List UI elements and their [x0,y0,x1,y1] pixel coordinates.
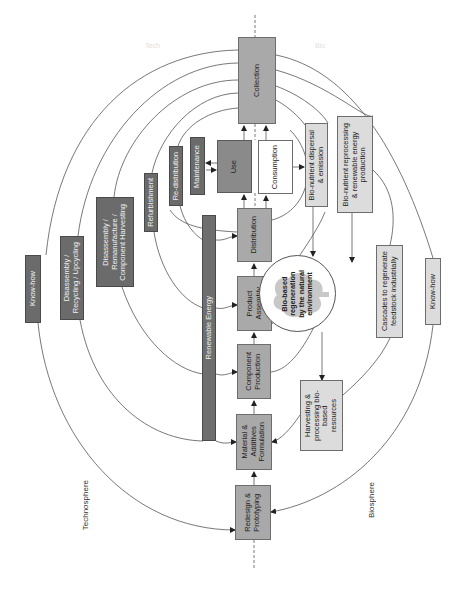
technosphere-label: Technosphere [81,480,90,530]
bio-nutrient-dispersal-box: Bio-nutrient dispersal & emission [305,123,328,207]
redistribution-label: Re-distribution [172,152,181,200]
component-production-label: Component Production [245,352,262,391]
remanufacture-label: Disassembly / Remanufacture / Component … [102,204,128,281]
maintenance-label: Maintenance [193,145,202,188]
knowhow-right-label: Know-how [429,274,438,309]
cascades-box: Cascades to regenerate feedstock industr… [376,245,403,338]
distribution-box: Distribution [237,208,272,262]
maintenance-box: Maintenance [190,137,205,195]
bio-nutrient-reprocessing-label: Bio-nutrient reprocessing & renewable en… [342,123,368,206]
knowhow-right-box: Know-how [425,258,441,325]
distribution-label: Distribution [250,216,259,254]
bio-based-regeneration-label: Bio-based regeneration by the natural en… [281,270,315,318]
biosphere-label: Biosphere [367,482,376,518]
bio-nutrient-dispersal-label: Bio-nutrient dispersal & emission [308,130,325,200]
use-box: Use [217,140,252,193]
harvesting-box: Harvesting & processing bio-based resour… [300,380,343,451]
bio-nutrient-reprocessing-box: Bio-nutrient reprocessing & renewable en… [337,116,373,213]
cascades-label: Cascades to regenerate feedstock industr… [381,251,398,331]
refurbishment-label: Refurbishment [147,178,156,227]
bio-based-regeneration-circle: Bio-based regeneration by the natural en… [259,255,336,332]
refurbishment-box: Refurbishment [144,173,158,232]
collection-box: Collection [238,37,276,124]
use-label: Use [230,160,239,173]
redesign-prototyping-label: Redesign & Prototyping [244,493,261,532]
renewable-energy-bar: Renewable Energy [202,215,216,441]
faint-label-bio: Bio [315,42,325,49]
remanufacture-box: Disassembly / Remanufacture / Component … [96,197,134,287]
redistribution-box: Re-distribution [169,146,183,206]
material-additives-label: Material & Additives Formulation [241,422,267,462]
component-production-box: Component Production [237,344,271,399]
material-additives-box: Material & Additives Formulation [236,414,272,470]
consumption-box: Consumption [258,140,293,194]
harvesting-label: Harvesting & processing bio-based resour… [304,381,339,450]
circular-economy-diagram: Tech Bio Collection Use Consumption Dist… [0,0,454,591]
collection-label: Collection [253,64,262,97]
knowhow-left-box: Know-how [25,255,41,323]
knowhow-left-label: Know-how [29,271,38,306]
consumption-label: Consumption [271,145,280,189]
recycling-box: Disassembly / Recycling / Upcycling [60,236,84,320]
renewable-energy-label: Renewable Energy [205,296,214,359]
recycling-label: Disassembly / Recycling / Upcycling [63,242,80,313]
redesign-prototyping-box: Redesign & Prototyping [235,485,271,540]
faint-label-tech: Tech [145,42,160,49]
